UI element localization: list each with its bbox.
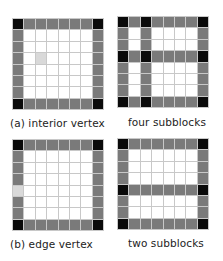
edge-cell [129, 139, 139, 149]
edge-cell [186, 17, 196, 27]
edge-cell [47, 99, 57, 109]
interior-cell [81, 53, 91, 63]
edge-cell [198, 162, 208, 172]
interior-cell [36, 151, 46, 161]
edge-cell [198, 28, 208, 38]
edge-cell [24, 140, 34, 150]
edge-cell [70, 99, 80, 109]
interior-cell [70, 186, 80, 196]
interior-cell [186, 74, 196, 84]
interior-cell [59, 76, 69, 86]
interior-cell [59, 87, 69, 97]
edge-cell [152, 185, 162, 195]
interior-cell [129, 63, 139, 73]
interior-cell [175, 173, 185, 183]
edge-cell [164, 51, 174, 61]
interior-cell [175, 40, 185, 50]
interior-cell [24, 30, 34, 40]
interior-cell [70, 163, 80, 173]
vertex-cell [93, 140, 103, 150]
interior-cell [81, 174, 91, 184]
edge-cell [141, 219, 151, 229]
edge-cell [152, 219, 162, 229]
interior-cell [152, 196, 162, 206]
vertex-cell [93, 99, 103, 109]
vertex-cell [141, 17, 151, 27]
edge-cell [13, 174, 23, 184]
edge-cell [13, 53, 23, 63]
vertex-cell [13, 220, 23, 230]
label-four-subblocks: four subblocks [128, 116, 206, 128]
grid-edge-vertex [12, 139, 104, 231]
interior-cell [141, 196, 151, 206]
edge-cell [93, 53, 103, 63]
interior-cell [70, 76, 80, 86]
edge-cell [93, 197, 103, 207]
edge-cell [198, 173, 208, 183]
edge-cell [81, 220, 91, 230]
interior-cell [24, 87, 34, 97]
interior-cell [164, 63, 174, 73]
edge-cell [198, 207, 208, 217]
interior-cell [81, 30, 91, 40]
edge-cell [186, 51, 196, 61]
vertex-cell [13, 99, 23, 109]
edge-cell [13, 76, 23, 86]
edge-cell [93, 42, 103, 52]
interior-cell [152, 28, 162, 38]
interior-cell [59, 65, 69, 75]
interior-cell [81, 208, 91, 218]
vertex-cell [13, 19, 23, 29]
edge-cell [93, 186, 103, 196]
edge-cell [152, 97, 162, 107]
edge-cell [59, 140, 69, 150]
vertex-cell [198, 139, 208, 149]
edge-cell [118, 162, 128, 172]
edge-cell [129, 17, 139, 27]
edge-cell [24, 19, 34, 29]
edge-cell [93, 174, 103, 184]
interior-cell [24, 76, 34, 86]
vertex-cell [198, 97, 208, 107]
edge-cell [141, 40, 151, 50]
vertex-cell [198, 51, 208, 61]
interior-cell [186, 28, 196, 38]
vertex-cell [118, 219, 128, 229]
interior-cell [81, 197, 91, 207]
interior-cell [81, 163, 91, 173]
interior-cell [59, 197, 69, 207]
interior-cell [186, 207, 196, 217]
vertex-cell [118, 97, 128, 107]
interior-cell [129, 207, 139, 217]
interior-cell [152, 207, 162, 217]
edge-cell [186, 139, 196, 149]
interior-cell [59, 186, 69, 196]
interior-cell [175, 196, 185, 206]
interior-cell [47, 87, 57, 97]
interior-cell [164, 85, 174, 95]
edge-cell [129, 219, 139, 229]
interior-cell [164, 173, 174, 183]
edge-cell [81, 140, 91, 150]
interior-cell [164, 74, 174, 84]
edge-cell [36, 140, 46, 150]
edge-cell [175, 51, 185, 61]
edge-cell [93, 76, 103, 86]
interior-cell [186, 196, 196, 206]
interior-cell [47, 208, 57, 218]
edge-cell [93, 163, 103, 173]
interior-cell [47, 174, 57, 184]
edge-cell [186, 185, 196, 195]
interior-cell [164, 162, 174, 172]
label-two-subblocks: two subblocks [128, 237, 204, 249]
edge-cell [118, 196, 128, 206]
interior-cell [36, 197, 46, 207]
edge-cell [141, 28, 151, 38]
interior-cell [152, 63, 162, 73]
edge-cell [47, 220, 57, 230]
interior-cell [186, 150, 196, 160]
edge-cell [175, 219, 185, 229]
interior-cell [175, 74, 185, 84]
interior-cell [24, 186, 34, 196]
edge-cell [186, 219, 196, 229]
